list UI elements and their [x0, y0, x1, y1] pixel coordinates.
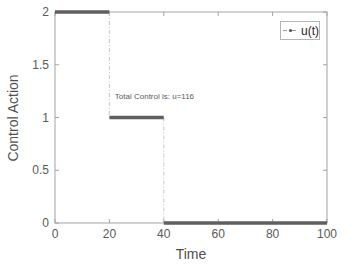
y-tick-label: 0: [42, 216, 49, 230]
y-tick-label: 2: [42, 5, 49, 19]
plot-area: 02040608010000.511.52Total Control is: u…: [0, 0, 352, 273]
control-action-chart: 02040608010000.511.52Total Control is: u…: [0, 0, 352, 273]
x-tick-label: 80: [266, 227, 280, 241]
x-tick-label: 0: [52, 227, 59, 241]
y-tick-label: 0.5: [32, 163, 49, 177]
y-tick-label: 1.5: [32, 58, 49, 72]
y-axis-label: Control Action: [5, 58, 21, 178]
legend-label: u(t): [301, 25, 319, 37]
legend: u(t): [280, 21, 320, 40]
x-tick-label: 20: [103, 227, 117, 241]
legend-dot-marker: [289, 29, 292, 32]
x-tick-label: 40: [157, 227, 171, 241]
axes-box: [55, 12, 327, 223]
x-tick-label: 100: [317, 227, 337, 241]
x-axis-label: Time: [55, 246, 327, 262]
x-tick-label: 60: [212, 227, 226, 241]
total-control-annotation: Total Control is: u=116: [115, 92, 195, 101]
y-tick-label: 1: [42, 111, 49, 125]
legend-line-sample: [281, 22, 300, 39]
